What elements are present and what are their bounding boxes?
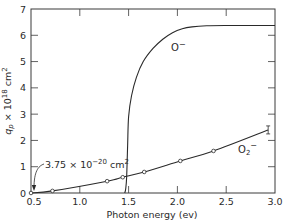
data-point-marker — [29, 191, 33, 195]
y-tick-label: 1 — [20, 161, 26, 172]
x-tick-label: 3.0 — [267, 196, 282, 207]
data-point-marker — [142, 170, 146, 174]
y-tick-label: 3 — [20, 109, 26, 120]
series-label-o2-minus: O2− — [238, 141, 257, 157]
data-point-marker — [121, 175, 125, 179]
data-point-marker — [179, 159, 183, 163]
data-point-marker — [212, 149, 216, 153]
y-tick-labels: 01234567 — [20, 4, 26, 199]
arrowhead-icon — [32, 185, 36, 191]
series-line-0 — [125, 26, 275, 193]
x-tick-label: 2.5 — [219, 196, 234, 207]
annotation-arrow — [34, 164, 44, 188]
y-tick-label: 7 — [20, 4, 26, 15]
y-tick-label: 5 — [20, 56, 26, 67]
x-axis-title: Photon energy (ev) — [106, 209, 197, 220]
x-tick-label: 2.0 — [170, 196, 185, 207]
x-tick-label: 0.5 — [26, 196, 41, 207]
annotation-text: 3.75 × 10−20 cm2 — [45, 158, 129, 170]
x-tick-labels: 0.51.01.52.02.53.0 — [26, 196, 282, 207]
y-axis-title: qp × 1018 cm2 — [1, 67, 15, 134]
data-point-marker — [51, 189, 55, 193]
chart: 0.51.01.52.02.53.0 01234567 O−O2− 3.75 ×… — [0, 0, 288, 224]
x-tick-label: 1.5 — [121, 196, 136, 207]
y-tick-label: 6 — [20, 30, 26, 41]
series-label-o-minus: O− — [171, 40, 186, 53]
data-point-marker — [105, 179, 109, 183]
y-tick-label: 0 — [20, 188, 26, 199]
y-tick-label: 2 — [20, 135, 26, 146]
y-tick-label: 4 — [20, 82, 26, 93]
x-tick-label: 1.0 — [72, 196, 87, 207]
